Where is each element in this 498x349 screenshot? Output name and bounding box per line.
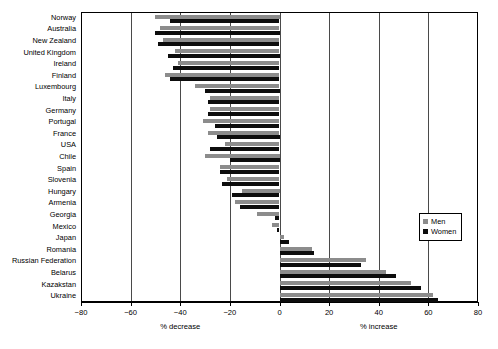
bar-women-georgia (275, 216, 280, 220)
x-tick-label-40: 40 (375, 308, 383, 317)
bar-women-norway (170, 19, 279, 23)
bar-men-ireland (178, 61, 280, 65)
legend-item-men[interactable]: Men (423, 217, 456, 226)
legend-swatch-women (423, 229, 428, 234)
bar-women-hungary (232, 193, 279, 197)
bar-men-kazakstan (280, 281, 412, 285)
bar-men-new-zealand (163, 38, 280, 42)
category-label-spain: Spain (57, 165, 76, 172)
category-label-georgia: Georgia (50, 211, 76, 218)
bar-men-hungary (242, 189, 279, 193)
x-tick-label-80: 80 (474, 308, 482, 317)
category-label-chile: Chile (59, 153, 76, 160)
bar-men-spain (220, 165, 280, 169)
category-label-slovenia: Slovenia (48, 176, 76, 183)
x-tick-60 (428, 302, 429, 306)
legend-label-women: Women (431, 228, 456, 235)
bar-women-luxembourg (205, 89, 279, 93)
bar-men-france (208, 131, 280, 135)
bar-women-australia (155, 31, 279, 35)
category-label-luxembourg: Luxembourg (35, 83, 76, 90)
legend-swatch-men (423, 219, 428, 224)
gridline-x-40 (379, 13, 380, 301)
bar-men-georgia (257, 212, 279, 216)
bar-women-russian-federation (280, 263, 362, 267)
x-tick--20 (230, 302, 231, 306)
category-label-france: France (53, 130, 76, 137)
bar-women-armenia (240, 205, 280, 209)
category-label-australia: Australia (47, 25, 76, 32)
bar-men-chile (205, 154, 279, 158)
category-label-italy: Italy (62, 95, 76, 102)
category-label-romania: Romania (46, 246, 76, 253)
category-label-usa: USA (61, 141, 76, 148)
category-label-russian-federation: Russian Federation (12, 257, 76, 264)
category-label-kazakstan: Kazakstan (41, 281, 76, 288)
x-tick-label--60: −60 (124, 308, 137, 317)
x-tick--60 (131, 302, 132, 306)
category-label-hungary: Hungary (48, 188, 76, 195)
legend-label-men: Men (431, 218, 445, 225)
bar-men-luxembourg (195, 84, 279, 88)
x-tick-label--20: −20 (223, 308, 236, 317)
bar-men-united-kingdom (175, 49, 279, 53)
x-tick-80 (478, 302, 479, 306)
bar-women-france (217, 135, 279, 139)
bar-women-new-zealand (158, 42, 280, 46)
bar-women-chile (230, 158, 280, 162)
bar-men-slovenia (227, 177, 279, 181)
x-tick-40 (379, 302, 380, 306)
bar-men-ukraine (280, 293, 434, 297)
category-label-new-zealand: New Zealand (32, 37, 76, 44)
bar-men-finland (165, 73, 279, 77)
bar-men-australia (160, 26, 279, 30)
category-label-norway: Norway (51, 14, 76, 21)
bar-women-japan (280, 240, 290, 244)
bar-women-slovenia (222, 182, 279, 186)
bar-men-japan (280, 235, 285, 239)
bar-women-usa (210, 147, 279, 151)
bar-women-portugal (215, 124, 280, 128)
chart-legend: MenWomen (419, 213, 462, 241)
bar-women-germany (208, 112, 280, 116)
category-label-ireland: Ireland (53, 60, 76, 67)
bar-men-usa (225, 142, 280, 146)
bar-women-romania (280, 251, 315, 255)
category-label-finland: Finland (52, 72, 76, 79)
bar-women-ukraine (280, 298, 439, 302)
legend-item-women[interactable]: Women (423, 227, 456, 236)
plot-area (81, 12, 478, 302)
bar-women-italy (208, 100, 280, 104)
x-tick-label-60: 60 (424, 308, 432, 317)
x-tick-label--40: −40 (174, 308, 187, 317)
category-label-belarus: Belarus (51, 269, 76, 276)
bar-men-germany (210, 107, 279, 111)
x-tick-label-0: 0 (277, 308, 281, 317)
category-label-ukraine: Ukraine (51, 292, 76, 299)
x-axis-label-decrease: % decrease (160, 322, 200, 331)
x-tick-label-20: 20 (325, 308, 333, 317)
bar-women-spain (220, 170, 280, 174)
bar-women-belarus (280, 274, 397, 278)
bar-men-russian-federation (280, 258, 367, 262)
bar-women-united-kingdom (168, 54, 280, 58)
bar-men-mexico (272, 223, 279, 227)
category-label-united-kingdom: United Kingdom (23, 49, 76, 56)
category-label-mexico: Mexico (53, 223, 76, 230)
category-axis-labels: NorwayAustraliaNew ZealandUnited Kingdom… (0, 12, 78, 302)
bar-men-norway (155, 15, 279, 19)
category-label-portugal: Portugal (48, 118, 76, 125)
bar-men-armenia (235, 200, 280, 204)
bar-men-portugal (203, 119, 280, 123)
x-tick-0 (280, 302, 281, 306)
bar-men-belarus (280, 270, 387, 274)
x-tick--80 (81, 302, 82, 306)
x-tick--40 (180, 302, 181, 306)
category-label-japan: Japan (56, 234, 76, 241)
category-label-germany: Germany (46, 107, 76, 114)
bar-women-mexico (277, 228, 279, 232)
bar-men-italy (210, 96, 279, 100)
chart-figure: NorwayAustraliaNew ZealandUnited Kingdom… (0, 0, 498, 349)
gridline-x--60 (131, 13, 132, 301)
x-tick-label--80: −80 (75, 308, 88, 317)
